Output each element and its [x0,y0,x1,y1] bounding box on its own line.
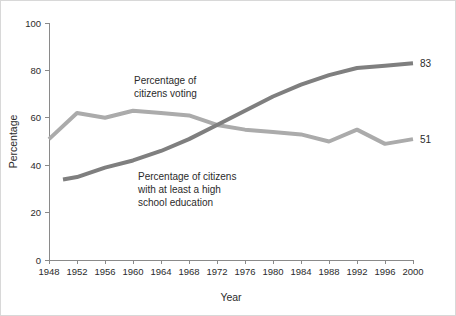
series-end-label-0: 51 [420,134,432,145]
y-tick-label: 40 [30,160,41,171]
voting-annotation-line: citizens voting [134,88,197,99]
x-axis: 1948195219561960196419681972197619801984… [38,260,423,277]
series-end-labels: 5183 [420,58,432,145]
line-chart: 020406080100 194819521956196019641968197… [1,1,456,316]
x-tick-label: 1984 [290,266,311,277]
x-tick-label: 1952 [66,266,87,277]
y-tick-label: 0 [36,255,41,266]
x-tick-label: 1988 [318,266,339,277]
x-tick-label: 1964 [150,266,171,277]
series-end-label-1: 83 [420,58,432,69]
education-annotation-line: school education [138,197,213,208]
y-tick-label: 60 [30,112,41,123]
x-tick-label: 1960 [122,266,143,277]
x-axis-ticks: 1948195219561960196419681972197619801984… [38,260,423,277]
y-tick-label: 80 [30,65,41,76]
x-tick-label: 1980 [262,266,283,277]
data-series-group [49,63,413,179]
x-tick-label: 1956 [94,266,115,277]
x-tick-label: 1948 [38,266,59,277]
voting-annotation: Percentage ofcitizens voting [134,75,197,99]
y-tick-label: 20 [30,207,41,218]
education-annotation-line: with at least a high [137,184,221,195]
x-axis-title: Year [220,291,242,303]
x-tick-label: 1992 [346,266,367,277]
x-tick-label: 1996 [374,266,395,277]
voting-annotation-line: Percentage of [134,75,196,86]
x-tick-label: 1968 [178,266,199,277]
education-annotation: Percentage of citizenswith at least a hi… [137,171,236,208]
y-axis-ticks: 020406080100 [25,18,49,266]
x-tick-label: 2000 [402,266,423,277]
chart-container: 020406080100 194819521956196019641968197… [0,0,456,316]
x-tick-label: 1972 [206,266,227,277]
series-line-1 [63,63,413,179]
y-tick-label: 100 [25,18,41,29]
y-axis-title: Percentage [7,114,19,168]
y-axis: 020406080100 [25,18,49,266]
education-annotation-line: Percentage of citizens [138,171,236,182]
x-tick-label: 1976 [234,266,255,277]
